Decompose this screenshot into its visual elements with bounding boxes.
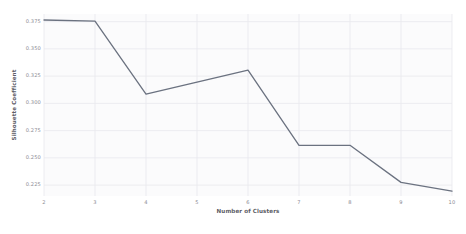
y-axis-tick-label: 0.250 — [26, 155, 41, 160]
plot-area — [44, 14, 452, 196]
x-axis-tick-label: 2 — [42, 200, 45, 205]
y-axis-tick-label: 0.325 — [26, 74, 41, 79]
series-line-path — [44, 20, 452, 191]
y-axis-tick-label: 0.300 — [26, 101, 41, 106]
x-axis-tick-label: 6 — [246, 200, 249, 205]
y-axis-tick-label: 0.375 — [26, 19, 41, 24]
y-axis-tick-label: 0.225 — [26, 183, 41, 188]
x-axis-tick-label: 3 — [93, 200, 96, 205]
y-axis-tick-label: 0.350 — [26, 46, 41, 51]
x-axis-tick-label: 10 — [449, 200, 456, 205]
y-axis-tick-label: 0.275 — [26, 128, 41, 133]
y-axis-title: Silhouette Coefficient — [9, 14, 20, 196]
x-axis-tick-label: 8 — [348, 200, 351, 205]
x-axis-title: Number of Clusters — [44, 209, 452, 215]
x-axis-tick-label: 9 — [399, 200, 402, 205]
line-series-silhouette-coefficient — [44, 14, 452, 196]
chart-figure: 0.3750.3500.3250.3000.2750.2500.225 2345… — [0, 0, 466, 234]
x-axis-tick-label: 5 — [195, 200, 198, 205]
x-axis-tick-label: 4 — [144, 200, 147, 205]
y-axis-tick-labels: 0.3750.3500.3250.3000.2750.2500.225 — [0, 14, 41, 196]
x-axis-tick-label: 7 — [297, 200, 300, 205]
